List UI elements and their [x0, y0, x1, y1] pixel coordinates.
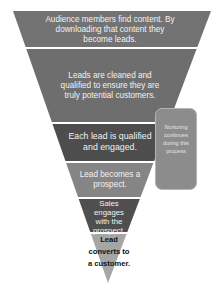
nurturing-note-label: Nurturing continues during this process: [156, 123, 196, 155]
funnel-stage-3-label: Each lead is qualified and engaged.: [60, 131, 160, 153]
funnel-stage-5-label: Sales engages with the prospect.: [88, 199, 130, 235]
funnel-stage-4-label: Lead becomes a prospect.: [78, 170, 142, 190]
nurturing-note-box: Nurturing continues during this process: [155, 108, 197, 190]
funnel-stage-6-label: Lead converts to a customer.: [86, 234, 132, 270]
funnel-stage-2-label: Leads are cleaned and qualified to ensur…: [54, 71, 166, 101]
funnel-stage-1-label: Audience members find content. By downlo…: [40, 15, 180, 45]
